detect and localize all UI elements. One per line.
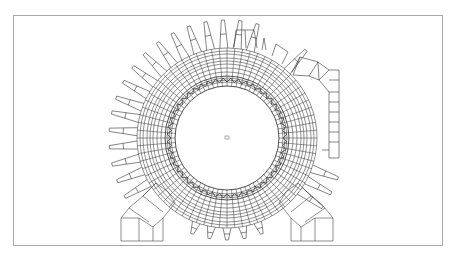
terminal-box — [292, 57, 339, 158]
top-lifting-block — [234, 30, 288, 64]
radial-mesh-lines — [137, 48, 317, 228]
center-marker — [225, 136, 229, 139]
right-mounting-foot — [279, 183, 333, 241]
motor-mesh-diagram — [0, 0, 458, 260]
